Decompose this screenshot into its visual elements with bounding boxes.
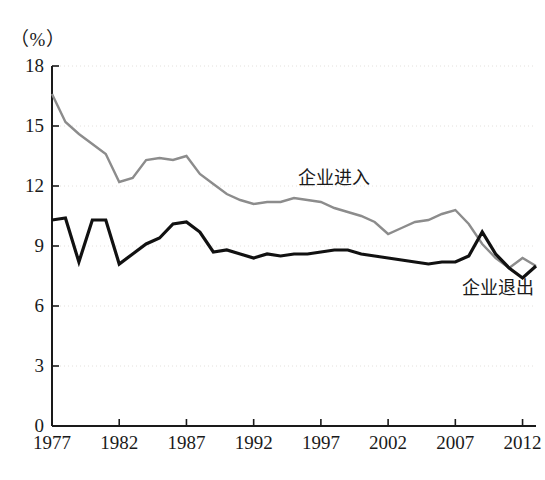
x-axis-tick-label: 1997 — [302, 432, 340, 454]
axis-ticks-group — [52, 66, 523, 426]
x-axis-tick-label: 1977 — [33, 432, 71, 454]
chart-plot-area — [0, 0, 545, 480]
x-axis-tick-label: 2002 — [369, 432, 407, 454]
y-axis-tick-label: 3 — [35, 355, 45, 377]
x-axis-tick-label: 1992 — [235, 432, 273, 454]
y-axis-tick-label: 9 — [35, 235, 45, 257]
series-line-exit — [52, 218, 536, 278]
x-axis-tick-label: 2007 — [436, 432, 474, 454]
y-axis-tick-label: 18 — [25, 55, 44, 77]
y-axis-tick-label: 15 — [25, 115, 44, 137]
series-label-entry: 企业进入 — [298, 163, 370, 189]
x-axis-tick-label: 1987 — [167, 432, 205, 454]
x-axis-tick-label: 1982 — [100, 432, 138, 454]
y-axis-tick-label: 12 — [25, 175, 44, 197]
series-label-exit: 企业退出 — [462, 273, 534, 299]
chart-container: （%） 0369121518 1977198219871992199720022… — [0, 0, 545, 480]
gridlines-group — [52, 66, 536, 366]
y-axis-tick-labels: 0369121518 — [0, 0, 44, 480]
series-line-entry — [52, 94, 536, 268]
y-axis-tick-label: 6 — [35, 295, 45, 317]
x-axis-tick-label: 2012 — [504, 432, 542, 454]
